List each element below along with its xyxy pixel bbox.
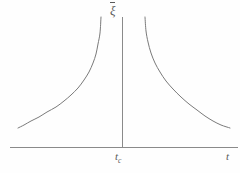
curve-branch-right (145, 17, 230, 128)
x-axis-critical-point-label: tc (115, 151, 121, 165)
axes-group (10, 17, 238, 147)
x-axis-label-text: t (226, 150, 229, 162)
y-axis-label-text: ξ (110, 1, 116, 17)
x-axis-critical-point-subscript: c (118, 156, 121, 165)
curve-branch-left (18, 17, 101, 128)
y-axis-label: ξ (110, 1, 116, 17)
curves-group (18, 17, 230, 128)
x-axis-label: t (226, 151, 229, 162)
correlation-length-divergence-figure: ξ tc t (0, 0, 240, 173)
plot-canvas (0, 0, 240, 173)
